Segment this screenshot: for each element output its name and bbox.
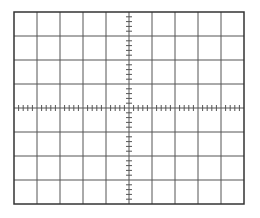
oscilloscope-graticule	[0, 0, 260, 218]
